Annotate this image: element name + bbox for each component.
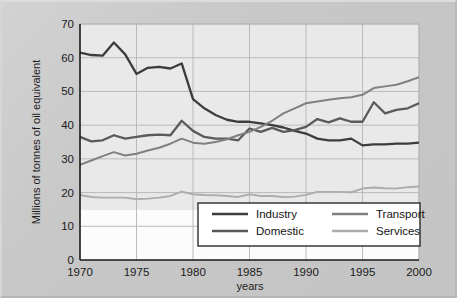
- x-tick-labels: 1970197519801985199019952000: [67, 266, 432, 278]
- y-tick-label: 40: [61, 119, 74, 131]
- x-tick-label: 2000: [406, 266, 432, 278]
- y-tick-label: 10: [61, 220, 74, 232]
- y-tick-label: 30: [61, 153, 74, 165]
- x-tick-label: 1985: [237, 266, 263, 278]
- y-tick-labels: 010203040506070: [61, 18, 74, 266]
- x-tick-label: 1975: [124, 266, 150, 278]
- x-tick-label: 1995: [350, 266, 376, 278]
- legend-label-transport: Transport: [376, 208, 426, 220]
- y-tick-label: 50: [61, 85, 74, 97]
- x-tick-label: 1990: [293, 266, 319, 278]
- y-tick-label: 0: [68, 254, 74, 266]
- y-axis-title: Millions of tonnes of oil equivalent: [30, 60, 42, 224]
- y-tick-label: 70: [61, 18, 74, 30]
- chart-legend: IndustryTransportDomesticServices: [198, 203, 426, 246]
- legend-label-industry: Industry: [256, 208, 297, 220]
- chart-figure: 010203040506070 197019751980198519901995…: [0, 0, 457, 298]
- y-tick-label: 20: [61, 187, 74, 199]
- legend-label-domestic: Domestic: [256, 225, 304, 237]
- x-axis-title: years: [237, 280, 264, 292]
- x-tick-label: 1980: [180, 266, 206, 278]
- y-tick-label: 60: [61, 52, 74, 64]
- line-chart: 010203040506070 197019751980198519901995…: [2, 2, 457, 298]
- x-tick-label: 1970: [67, 266, 93, 278]
- legend-label-services: Services: [376, 225, 420, 237]
